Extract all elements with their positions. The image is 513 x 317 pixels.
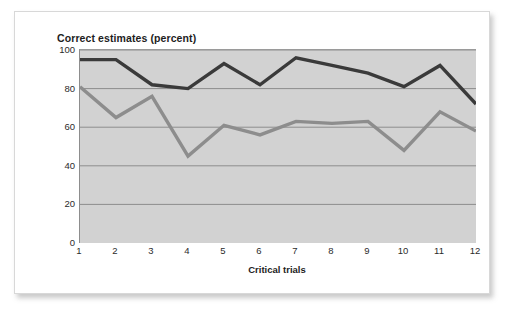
y-tick-label: 100: [49, 44, 75, 55]
x-tick-label: 10: [398, 245, 409, 256]
y-tick-label: 0: [49, 237, 75, 248]
x-tick-label: 1: [76, 245, 81, 256]
x-tick-label: 8: [328, 245, 333, 256]
x-tick-label: 6: [256, 245, 261, 256]
x-tick-label: 2: [112, 245, 117, 256]
x-tick-label: 9: [364, 245, 369, 256]
y-tick-label: 40: [49, 159, 75, 170]
x-axis-tick-labels: 123456789101112: [79, 245, 475, 261]
y-tick-label: 80: [49, 82, 75, 93]
y-tick-label: 60: [49, 121, 75, 132]
series-line-dark-line: [80, 58, 476, 104]
line-chart-svg: [80, 50, 476, 243]
x-tick-label: 11: [434, 245, 444, 256]
y-tick-label: 20: [49, 198, 75, 209]
page-root: Correct estimates (percent) 020406080100…: [0, 0, 513, 317]
chart-title: Correct estimates (percent): [57, 32, 196, 44]
x-tick-label: 12: [470, 245, 481, 256]
x-tick-label: 4: [184, 245, 189, 256]
x-tick-label: 5: [220, 245, 225, 256]
x-axis-title: Critical trials: [79, 264, 475, 275]
data-series-group: [80, 58, 476, 156]
x-tick-label: 7: [292, 245, 297, 256]
x-tick-label: 3: [148, 245, 153, 256]
plot-area: [79, 49, 476, 243]
figure-card: Correct estimates (percent) 020406080100…: [14, 11, 490, 294]
series-line-gray-line: [80, 87, 476, 156]
y-axis-tick-labels: 020406080100: [45, 49, 75, 242]
